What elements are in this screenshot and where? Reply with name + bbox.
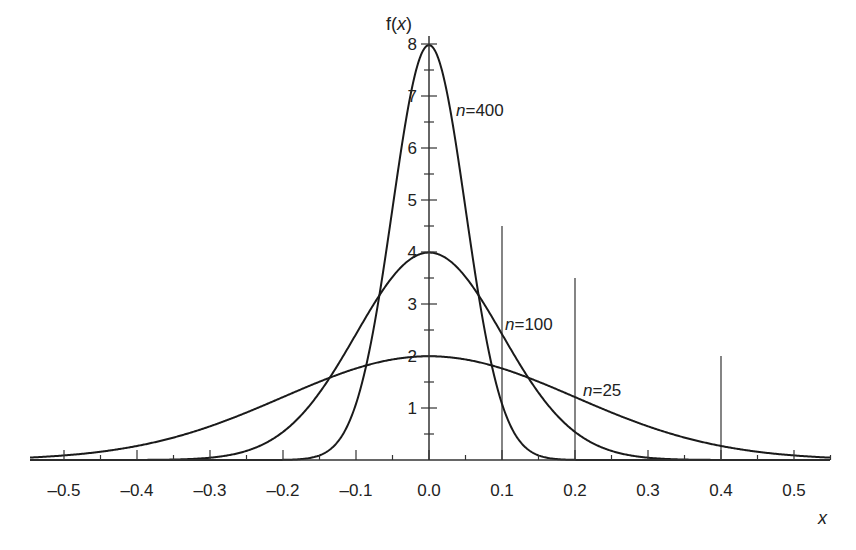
y-tick-label: 2: [408, 347, 417, 366]
x-tick-label: –0.5: [47, 481, 80, 500]
y-tick-label: 3: [408, 295, 417, 314]
y-tick-label: 7: [408, 87, 417, 106]
y-tick-label: 4: [408, 243, 417, 262]
y-tick-label: 5: [408, 191, 417, 210]
curve-label-n-25: n=25: [583, 381, 621, 400]
x-tick-label: 0.2: [563, 481, 587, 500]
x-tick-label: 0.0: [417, 481, 441, 500]
x-tick-label: –0.4: [120, 481, 153, 500]
curve-label-n-100: n=100: [505, 315, 553, 334]
curve-label-n-400: n=400: [456, 101, 504, 120]
x-tick-label: 0.1: [490, 481, 514, 500]
y-axis-title: f(x): [386, 14, 412, 34]
curve-n-25: [30, 356, 830, 457]
x-tick-label: –0.3: [193, 481, 226, 500]
x-tick-label: –0.2: [266, 481, 299, 500]
reference-lines: [502, 226, 721, 460]
y-tick-label: 8: [408, 35, 417, 54]
axes: –0.5–0.4–0.3–0.2–0.10.00.10.20.30.40.512…: [30, 35, 831, 500]
y-tick-label: 1: [408, 399, 417, 418]
x-tick-label: 0.3: [636, 481, 660, 500]
x-tick-label: –0.1: [339, 481, 372, 500]
x-axis-title: x: [817, 508, 828, 528]
x-tick-label: 0.4: [709, 481, 733, 500]
normal-density-chart: –0.5–0.4–0.3–0.2–0.10.00.10.20.30.40.512…: [0, 0, 856, 550]
labels: f(x)xn=400n=100n=25: [386, 14, 828, 528]
x-tick-label: 0.5: [782, 481, 806, 500]
y-tick-label: 6: [408, 139, 417, 158]
